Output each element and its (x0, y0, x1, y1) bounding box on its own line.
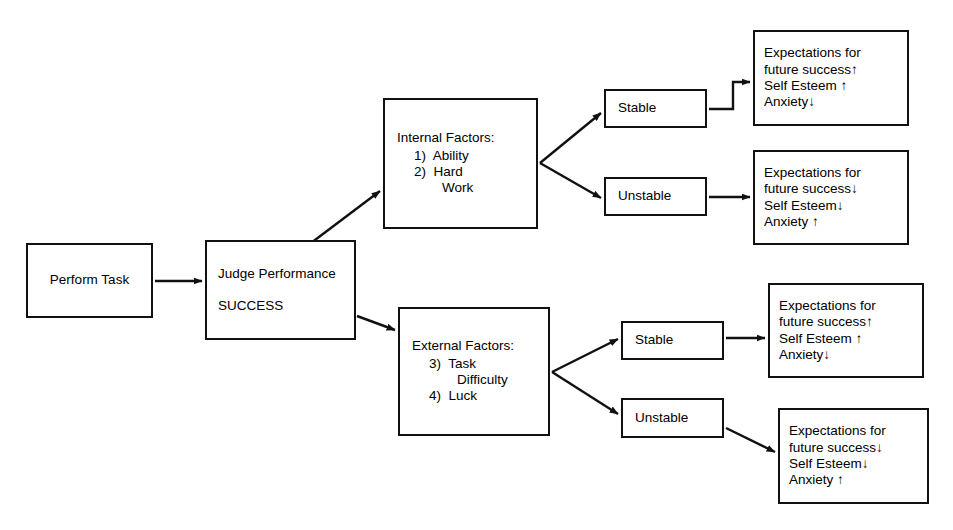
attribution-flowchart: Perform Task Judge Performance SUCCESS I… (0, 0, 953, 530)
node-external-factors[interactable]: External Factors: 3) Task Difficulty 4) … (398, 307, 550, 436)
spacer (218, 282, 354, 298)
outcome-future-success-value: future success↑ (779, 314, 922, 330)
node-perform-task[interactable]: Perform Task (26, 243, 153, 318)
outcome-expectations-label: Expectations for (764, 45, 907, 61)
connector-internal-factors-to-unstable (540, 163, 601, 198)
node-outcome-internal-unstable[interactable]: Expectations for future success↓ Self Es… (753, 150, 909, 245)
internal-factors-item-2-continuation: Work (397, 180, 536, 196)
internal-factors-item-1: 1) Ability (397, 148, 536, 164)
outcome-expectations-label: Expectations for (764, 165, 907, 181)
connector-unstable-external-to-outcome-4 (726, 428, 775, 452)
outcome-anxiety-value: Anxiety↓ (764, 94, 907, 110)
outcome-anxiety-value: Anxiety↓ (779, 347, 922, 363)
connector-external-factors-to-unstable (552, 372, 618, 414)
stable-internal-label: Stable (618, 100, 656, 116)
outcome-self-esteem-value: Self Esteem↓ (764, 198, 907, 214)
judge-performance-outcome-label: SUCCESS (218, 298, 354, 314)
outcome-future-success-value: future success↑ (764, 62, 907, 78)
outcome-expectations-label: Expectations for (779, 298, 922, 314)
internal-factors-heading: Internal Factors: (397, 130, 536, 146)
external-factors-heading: External Factors: (412, 338, 548, 354)
node-stable-external[interactable]: Stable (621, 321, 724, 360)
external-factors-item-4: 4) Luck (412, 388, 548, 404)
connector-external-factors-to-stable (552, 339, 618, 372)
outcome-expectations-label: Expectations for (789, 423, 927, 439)
connector-judge-performance-to-external-factors (357, 316, 395, 330)
unstable-external-label: Unstable (635, 410, 688, 426)
outcome-self-esteem-value: Self Esteem ↑ (764, 78, 907, 94)
outcome-self-esteem-value: Self Esteem↓ (789, 456, 927, 472)
judge-performance-label: Judge Performance (218, 266, 354, 282)
connector-internal-factors-to-stable (540, 113, 601, 163)
connector-stable-internal-to-outcome-1 (709, 82, 750, 109)
node-outcome-external-stable[interactable]: Expectations for future success↑ Self Es… (768, 283, 924, 378)
outcome-future-success-value: future success↓ (764, 181, 907, 197)
stable-external-label: Stable (635, 332, 673, 348)
node-unstable-external[interactable]: Unstable (621, 398, 724, 438)
outcome-anxiety-value: Anxiety ↑ (764, 214, 907, 230)
node-internal-factors[interactable]: Internal Factors: 1) Ability 2) Hard Wor… (383, 98, 538, 229)
node-stable-internal[interactable]: Stable (604, 89, 707, 128)
unstable-internal-label: Unstable (618, 188, 671, 204)
connector-judge-performance-to-internal-factors (311, 191, 380, 243)
outcome-future-success-value: future success↓ (789, 440, 927, 456)
external-factors-item-3: 3) Task (412, 356, 548, 372)
internal-factors-item-2: 2) Hard (397, 164, 536, 180)
outcome-anxiety-value: Anxiety ↑ (789, 472, 927, 488)
external-factors-item-3-continuation: Difficulty (412, 372, 548, 388)
perform-task-label: Perform Task (50, 272, 129, 288)
node-outcome-external-unstable[interactable]: Expectations for future success↓ Self Es… (778, 408, 929, 504)
node-outcome-internal-stable[interactable]: Expectations for future success↑ Self Es… (753, 30, 909, 126)
node-unstable-internal[interactable]: Unstable (604, 177, 707, 216)
outcome-self-esteem-value: Self Esteem ↑ (779, 331, 922, 347)
node-judge-performance[interactable]: Judge Performance SUCCESS (205, 240, 356, 340)
